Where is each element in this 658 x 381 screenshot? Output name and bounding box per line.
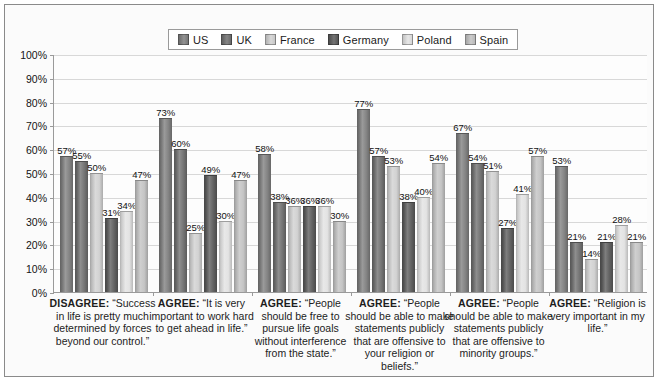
y-axis-tick-label: 70% [3,120,47,132]
bar-value-label: 47% [231,170,250,180]
bar-germany-group-3[interactable]: 36% [303,55,316,292]
category-caption-2: AGREE: “It is very important to work har… [147,297,256,335]
bar-france-group-3[interactable]: 36% [288,55,301,292]
bar-body: 53% [555,166,568,292]
bar-body: 73% [159,118,172,292]
bar-body: 57% [531,156,544,292]
bar-france-group-4[interactable]: 53% [387,55,400,292]
bar-germany-group-4[interactable]: 38% [402,55,415,292]
bar-poland-group-6[interactable]: 28% [615,55,628,292]
category-caption-3: AGREE: “People should be free to pursue … [246,297,355,360]
bar-uk-group-6[interactable]: 21% [570,55,583,292]
bar-spain-group-6[interactable]: 21% [630,55,643,292]
y-axis-tick-label: 100% [3,49,47,61]
bar-value-label: 60% [171,139,190,149]
category-caption-6: AGREE: “Religion is very important in my… [543,297,652,335]
bar-value-label: 21% [567,232,586,242]
y-axis-tick-label: 0% [3,287,47,299]
bar-uk-group-1[interactable]: 55% [75,55,88,292]
legend-swatch-icon [402,34,413,45]
bar-body: 36% [318,206,331,292]
bar-body: 21% [600,242,613,292]
bar-france-group-5[interactable]: 51% [486,55,499,292]
bar-body: 36% [288,206,301,292]
bar-value-label: 51% [483,161,502,171]
legend-item-germany[interactable]: Germany [328,34,389,46]
bar-germany-group-2[interactable]: 49% [204,55,217,292]
bar-germany-group-5[interactable]: 27% [501,55,514,292]
bar-spain-group-2[interactable]: 47% [234,55,247,292]
chart-frame: USUKFranceGermanyPolandSpain 100%90%80%7… [4,4,654,377]
bar-group-2: 73%60%25%49%30%47% [153,55,252,292]
y-axis-tick-label: 30% [3,216,47,228]
bar-body: 14% [585,259,598,292]
legend-swatch-icon [221,34,232,45]
bar-us-group-3[interactable]: 58% [258,55,271,292]
bar-body: 21% [570,242,583,292]
y-axis-tick-label: 80% [3,97,47,109]
legend-item-france[interactable]: France [265,34,315,46]
legend-label: Spain [480,34,509,46]
bar-us-group-2[interactable]: 73% [159,55,172,292]
bar-france-group-1[interactable]: 50% [90,55,103,292]
bar-uk-group-2[interactable]: 60% [174,55,187,292]
bar-uk-group-4[interactable]: 57% [372,55,385,292]
bar-uk-group-5[interactable]: 54% [471,55,484,292]
category-caption-1: DISAGREE: “Success in life is pretty muc… [48,297,157,347]
bar-value-label: 40% [414,187,433,197]
bar-value-label: 73% [156,108,175,118]
bar-poland-group-5[interactable]: 41% [516,55,529,292]
caption-prefix: AGREE: [458,297,500,309]
bar-body: 38% [273,202,286,292]
bar-germany-group-1[interactable]: 31% [105,55,118,292]
bar-body: 58% [258,154,271,292]
y-axis-labels: 100%90%80%70%60%50%40%30%20%10%0% [5,55,49,293]
bar-poland-group-4[interactable]: 40% [417,55,430,292]
bar-us-group-6[interactable]: 53% [555,55,568,292]
x-axis-group-separator [252,292,253,296]
legend-item-uk[interactable]: UK [221,34,251,46]
y-axis-tick-mark [50,293,54,294]
bar-body: 31% [105,218,118,292]
category-caption-5: AGREE: “People should be able to make st… [444,297,553,360]
bar-value-label: 36% [315,196,334,206]
bar-germany-group-6[interactable]: 21% [600,55,613,292]
bar-poland-group-1[interactable]: 34% [120,55,133,292]
caption-prefix: AGREE: [260,297,302,309]
bar-value-label: 21% [597,232,616,242]
bar-spain-group-4[interactable]: 54% [432,55,445,292]
bar-france-group-6[interactable]: 14% [585,55,598,292]
bar-us-group-1[interactable]: 57% [60,55,73,292]
bar-us-group-4[interactable]: 77% [357,55,370,292]
bar-value-label: 53% [384,156,403,166]
x-axis-group-separator [549,292,550,296]
bar-spain-group-1[interactable]: 47% [135,55,148,292]
bar-group-6: 53%21%14%21%28%21% [549,55,648,292]
bar-poland-group-2[interactable]: 30% [219,55,232,292]
bar-group-3: 58%38%36%36%36%30% [252,55,351,292]
bar-value-label: 28% [612,215,631,225]
bar-body: 30% [333,221,346,292]
y-axis-tick-label: 40% [3,192,47,204]
legend-label: Germany [343,34,389,46]
legend-label: US [193,34,208,46]
legend-item-us[interactable]: US [178,34,208,46]
bar-value-label: 27% [498,218,517,228]
y-axis-tick-label: 90% [3,73,47,85]
caption-prefix: AGREE: [158,297,200,309]
legend-item-poland[interactable]: Poland [402,34,452,46]
bar-group-4: 77%57%53%38%40%54% [351,55,450,292]
bar-value-label: 21% [627,232,646,242]
bar-france-group-2[interactable]: 25% [189,55,202,292]
bar-spain-group-3[interactable]: 30% [333,55,346,292]
y-axis-tick-label: 50% [3,168,47,180]
legend-item-spain[interactable]: Spain [465,34,509,46]
bar-value-label: 58% [255,144,274,154]
bar-uk-group-3[interactable]: 38% [273,55,286,292]
bar-us-group-5[interactable]: 67% [456,55,469,292]
bar-poland-group-3[interactable]: 36% [318,55,331,292]
bar-body: 30% [219,221,232,292]
bar-body: 38% [402,202,415,292]
bar-spain-group-5[interactable]: 57% [531,55,544,292]
x-axis-group-separator [153,292,154,296]
